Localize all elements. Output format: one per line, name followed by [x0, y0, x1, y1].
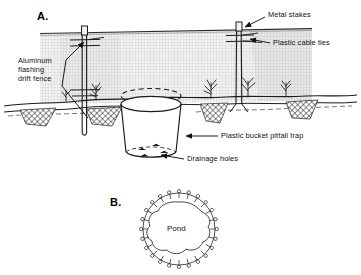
label-drainage-holes: Drainage holes: [187, 154, 238, 163]
figure-canvas: A. B. Aluminum flashing drift fence Meta…: [0, 0, 361, 275]
label-plastic-bucket-pitfall-trap: Plastic bucket pitfall trap: [221, 131, 303, 140]
panel-a-letter: A.: [37, 10, 49, 22]
leader-metal-stakes: [245, 17, 265, 27]
panel-b-letter: B.: [110, 196, 122, 208]
label-pond: Pond: [167, 224, 186, 233]
label-metal-stakes: Metal stakes: [268, 10, 311, 19]
label-aluminum-flashing-drift-fence: Aluminum flashing drift fence: [18, 56, 52, 84]
plastic-bucket-pitfall-trap: [121, 89, 181, 158]
label-plastic-cable-ties: Plastic cable ties: [273, 38, 330, 47]
leader-drainage: [161, 155, 184, 159]
